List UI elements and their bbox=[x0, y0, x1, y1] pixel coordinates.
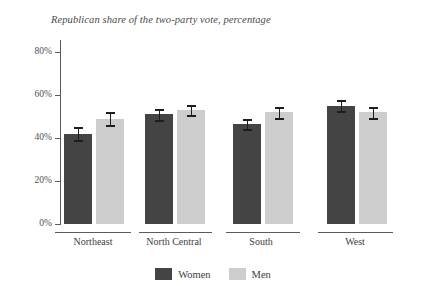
error-bar-cap-upper bbox=[106, 112, 115, 114]
legend-swatch-men bbox=[229, 268, 246, 280]
y-axis-tick-label: 0% bbox=[18, 219, 52, 229]
y-axis-tick-label-text: 60% bbox=[18, 90, 52, 100]
error-bar-cap-upper bbox=[243, 119, 252, 121]
x-axis-segment bbox=[139, 232, 212, 233]
y-axis-tick-label-text: 80% bbox=[18, 47, 52, 57]
error-bar-cap-lower bbox=[337, 111, 346, 113]
error-bar-cap-lower bbox=[106, 125, 115, 127]
error-bar-cap-upper bbox=[187, 105, 196, 107]
error-bar-cap-upper bbox=[275, 107, 284, 109]
y-axis-tick-label-text: 40% bbox=[18, 133, 52, 143]
error-bar-cap-upper bbox=[74, 127, 83, 129]
legend-item-men: Men bbox=[229, 268, 271, 280]
x-axis-label-west: West bbox=[295, 236, 415, 247]
chart-root: Republican share of the two-party vote, … bbox=[0, 0, 426, 302]
y-axis-tick-label: 60% bbox=[18, 90, 52, 100]
bar-west-men bbox=[359, 112, 387, 224]
bar-south-women bbox=[233, 124, 261, 224]
x-axis-segment bbox=[55, 232, 131, 233]
y-axis-tick-mark bbox=[55, 52, 61, 53]
error-bar-cap-upper bbox=[155, 109, 164, 111]
x-axis-segment bbox=[226, 232, 300, 233]
y-axis-tick-label-text: 0% bbox=[18, 219, 52, 229]
error-bar-cap-lower bbox=[369, 118, 378, 120]
error-bar-cap-lower bbox=[74, 140, 83, 142]
x-axis-segment bbox=[318, 232, 393, 233]
legend: WomenMen bbox=[0, 268, 426, 280]
legend-label-women: Women bbox=[178, 269, 210, 280]
y-axis-tick-label: 40% bbox=[18, 133, 52, 143]
y-axis-tick-mark bbox=[55, 95, 61, 96]
y-axis-tick-label: 20% bbox=[18, 176, 52, 186]
error-bar-cap-lower bbox=[155, 120, 164, 122]
error-bar-cap-lower bbox=[275, 118, 284, 120]
bar-northeast-men bbox=[96, 119, 124, 224]
y-axis-line bbox=[60, 40, 61, 225]
y-axis-tick-mark bbox=[55, 181, 61, 182]
bar-northeast-women bbox=[64, 134, 92, 224]
bar-north-central-men bbox=[177, 110, 205, 224]
legend-swatch-women bbox=[155, 268, 172, 280]
legend-item-women: Women bbox=[155, 268, 210, 280]
bar-west-women bbox=[327, 106, 355, 224]
y-axis-tick-label: 80% bbox=[18, 47, 52, 57]
error-bar-cap-lower bbox=[243, 129, 252, 131]
error-bar-cap-upper bbox=[337, 100, 346, 102]
error-bar-cap-upper bbox=[369, 107, 378, 109]
y-axis-tick-mark bbox=[55, 138, 61, 139]
bar-north-central-women bbox=[145, 114, 173, 224]
bar-south-men bbox=[265, 112, 293, 224]
y-axis-tick-label-text: 20% bbox=[18, 176, 52, 186]
y-axis-tick-mark bbox=[55, 224, 61, 225]
error-bar-cap-lower bbox=[187, 115, 196, 117]
plot-area: 0%20%40%60%80% NortheastNorth CentralSou… bbox=[0, 0, 426, 302]
legend-label-men: Men bbox=[252, 269, 271, 280]
